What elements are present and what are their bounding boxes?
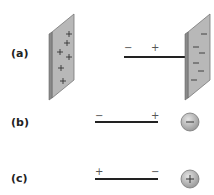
rod-b <box>95 121 158 123</box>
rod-c-right-sign: − <box>151 167 159 177</box>
rod-c-left-sign: + <box>95 167 103 177</box>
positive-plate <box>48 10 78 100</box>
rod-a-right-sign: + <box>151 43 159 53</box>
negative-sphere <box>180 112 200 132</box>
rod-c <box>95 178 158 180</box>
row-a-label: (a) <box>11 47 28 60</box>
rod-b-left-sign: − <box>95 111 103 121</box>
rod-b-right-sign: + <box>151 111 159 121</box>
rod-a-left-sign: − <box>124 43 132 53</box>
negative-plate <box>184 10 214 100</box>
positive-sphere <box>180 169 200 189</box>
row-b-label: (b) <box>11 116 29 129</box>
row-c-label: (c) <box>11 172 28 185</box>
rod-a <box>124 56 185 58</box>
